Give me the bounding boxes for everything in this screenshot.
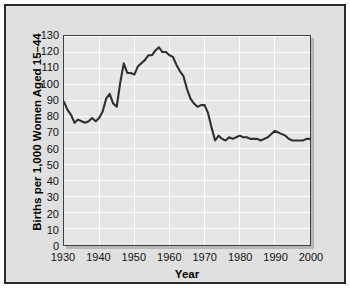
y-tick-label: 50 bbox=[33, 159, 59, 171]
y-tick-label: 110 bbox=[33, 61, 59, 73]
chart-frame: Births per 1,000 Women Aged 15–44 010203… bbox=[4, 4, 346, 284]
y-tick-label: 80 bbox=[33, 110, 59, 122]
x-tick-label: 1940 bbox=[78, 251, 118, 263]
x-tick-label: 1930 bbox=[43, 251, 83, 263]
x-tick-label: 2000 bbox=[291, 251, 331, 263]
y-tick-label: 40 bbox=[33, 175, 59, 187]
fertility-rate-line bbox=[64, 47, 310, 140]
data-series-line bbox=[64, 36, 310, 245]
x-tick-label: 1950 bbox=[114, 251, 154, 263]
x-tick-label: 1980 bbox=[220, 251, 260, 263]
y-tick-label: 20 bbox=[33, 208, 59, 220]
y-tick-label: 10 bbox=[33, 224, 59, 236]
x-axis-tick-labels: 19301940195019601970198019902000 bbox=[63, 251, 311, 267]
x-tick-label: 1960 bbox=[149, 251, 189, 263]
chart-figure: Births per 1,000 Women Aged 15–44 010203… bbox=[0, 0, 350, 297]
y-tick-label: 60 bbox=[33, 143, 59, 155]
x-tick-label: 1990 bbox=[256, 251, 296, 263]
y-axis-tick-labels: 0102030405060708090100110120130 bbox=[31, 35, 59, 246]
y-tick-label: 130 bbox=[33, 29, 59, 41]
y-tick-label: 90 bbox=[33, 94, 59, 106]
y-tick-label: 120 bbox=[33, 45, 59, 57]
plot-area bbox=[63, 35, 311, 246]
y-tick-label: 30 bbox=[33, 191, 59, 203]
x-tick-label: 1970 bbox=[185, 251, 225, 263]
y-tick-label: 100 bbox=[33, 78, 59, 90]
y-tick-label: 70 bbox=[33, 126, 59, 138]
watermark-text bbox=[14, 268, 344, 294]
